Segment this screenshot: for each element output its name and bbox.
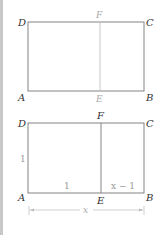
bottom-figure: D C A B F E 1 1 x − 1 x (17, 110, 154, 215)
bottom-label-F: F (96, 110, 105, 121)
top-label-B: B (145, 92, 153, 103)
top-rectangle-ABCD (28, 22, 144, 91)
golden-rectangle-diagram: D C A B F E D C A B F E 1 1 x − 1 x (0, 0, 166, 235)
arrowhead-left-icon (30, 209, 34, 212)
side-AD-length: 1 (20, 154, 26, 164)
total-AB-length: x (83, 205, 88, 215)
top-label-A: A (17, 92, 25, 103)
top-label-D: D (17, 17, 26, 28)
bottom-label-D: D (17, 118, 26, 129)
segment-AE-length: 1 (64, 181, 70, 191)
bottom-label-E: E (96, 195, 105, 206)
bottom-label-A: A (17, 192, 25, 203)
top-label-E: E (95, 94, 103, 104)
dimension-line-AB: x (29, 205, 144, 215)
bottom-label-C: C (146, 118, 154, 129)
top-label-C: C (146, 17, 154, 28)
bottom-label-B: B (145, 192, 153, 203)
top-label-F: F (95, 10, 103, 20)
arrowhead-right-icon (139, 209, 143, 212)
top-figure: D C A B F E (17, 10, 154, 104)
segment-EB-length: x − 1 (111, 181, 135, 191)
